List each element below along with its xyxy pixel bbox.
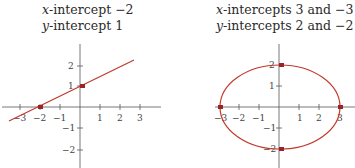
y-intercept-pos-marker — [279, 63, 284, 67]
y-intercept-marker — [80, 84, 85, 88]
graphs: −3 −2 −1 1 2 3 2 1 −1 −2 −3 −2 − — [0, 0, 355, 168]
svg-text:−1: −1 — [62, 123, 75, 133]
svg-text:−2: −2 — [33, 113, 46, 123]
x-intercept-pos-marker — [338, 105, 343, 109]
svg-text:−2: −2 — [62, 145, 75, 155]
svg-text:1: 1 — [297, 113, 303, 123]
left-graph: −3 −2 −1 1 2 3 2 1 −1 −2 — [2, 44, 161, 168]
svg-text:1: 1 — [97, 113, 103, 123]
svg-text:2: 2 — [117, 113, 123, 123]
svg-text:−1: −1 — [263, 123, 276, 133]
svg-text:2: 2 — [316, 113, 322, 123]
svg-text:−1: −1 — [53, 113, 66, 123]
svg-text:2: 2 — [68, 61, 74, 71]
y-tick-labels: 2 1 −1 −2 — [62, 61, 75, 155]
x-intercept-marker — [38, 105, 43, 109]
x-intercept-neg-marker — [218, 105, 223, 109]
y-intercept-neg-marker — [279, 147, 284, 151]
x-tick-labels: −3 −2 −1 1 2 3 — [214, 113, 343, 123]
svg-text:−1: −1 — [252, 113, 265, 123]
svg-text:−2: −2 — [232, 113, 245, 123]
svg-text:3: 3 — [137, 113, 143, 123]
svg-text:1: 1 — [269, 81, 275, 91]
right-graph: −3 −2 −1 1 2 3 2 1 −1 −2 — [214, 44, 355, 168]
x-tick-labels: −3 −2 −1 1 2 3 — [13, 113, 143, 123]
